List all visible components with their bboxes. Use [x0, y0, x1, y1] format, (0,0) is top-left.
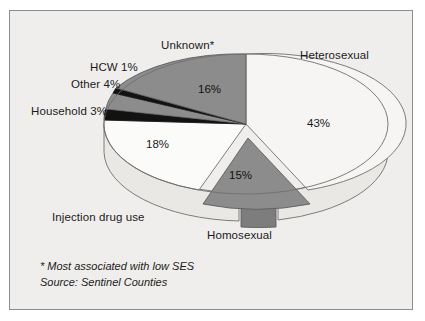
- label-unknown: Unknown*: [161, 39, 214, 52]
- value-homosexual: 15%: [229, 169, 252, 181]
- value-injection: 18%: [146, 138, 169, 150]
- label-hcw: HCW 1%: [90, 61, 138, 74]
- label-heterosexual: Heterosexual: [300, 49, 369, 62]
- label-other: Other 4%: [71, 78, 120, 91]
- value-heterosexual: 43%: [307, 117, 330, 129]
- chart-frame: Heterosexual 43% Unknown* 16% HCW 1% Oth…: [9, 10, 413, 310]
- label-household: Household 3%: [31, 105, 107, 118]
- label-homosexual: Homosexual: [207, 229, 272, 242]
- footnote-line-2: Source: Sentinel Counties: [40, 275, 194, 291]
- value-unknown: 16%: [198, 83, 221, 95]
- footnote-line-1: * Most associated with low SES: [40, 259, 194, 275]
- label-injection: Injection drug use: [52, 211, 145, 224]
- footnote: * Most associated with low SES Source: S…: [40, 259, 194, 291]
